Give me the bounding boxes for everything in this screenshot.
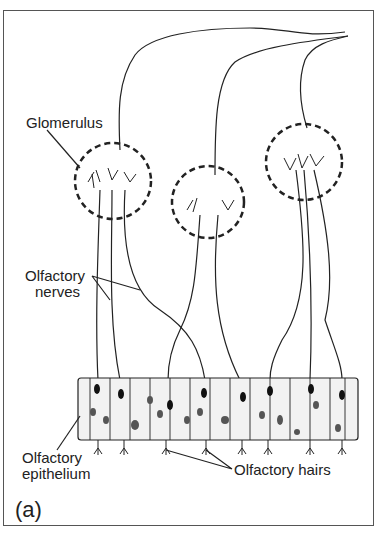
nerve-7 bbox=[304, 170, 311, 380]
glomerulus-tufts bbox=[88, 154, 324, 212]
nerve-8 bbox=[314, 170, 342, 380]
nerves-label-line2: nerves bbox=[35, 284, 80, 300]
glomerulus-leader bbox=[47, 130, 80, 168]
epithelium-label-line1: Olfactory bbox=[22, 450, 82, 466]
glomerulus-label: Glomerulus bbox=[26, 115, 103, 131]
epithelium-label-line2: epithelium bbox=[22, 466, 90, 482]
axon-path-2 bbox=[215, 36, 348, 175]
glomerulus-circle-3 bbox=[266, 124, 342, 200]
nerves-leader bbox=[92, 276, 140, 300]
nerve-5 bbox=[215, 215, 240, 380]
panel-label: (a) bbox=[15, 497, 42, 523]
nerves-label-line1: Olfactory bbox=[25, 268, 85, 284]
hairs-label: Olfactory hairs bbox=[234, 462, 331, 478]
axon-path-3 bbox=[301, 36, 348, 128]
hairs-leader bbox=[166, 450, 232, 469]
axon-path-1 bbox=[119, 28, 345, 150]
epithelium-leader bbox=[57, 416, 80, 450]
nerve-4 bbox=[168, 215, 200, 380]
nerve-3 bbox=[124, 190, 205, 380]
nerve-6 bbox=[270, 170, 303, 380]
glomerulus-circle-1 bbox=[75, 143, 151, 219]
olfactory-hairs bbox=[94, 440, 346, 455]
